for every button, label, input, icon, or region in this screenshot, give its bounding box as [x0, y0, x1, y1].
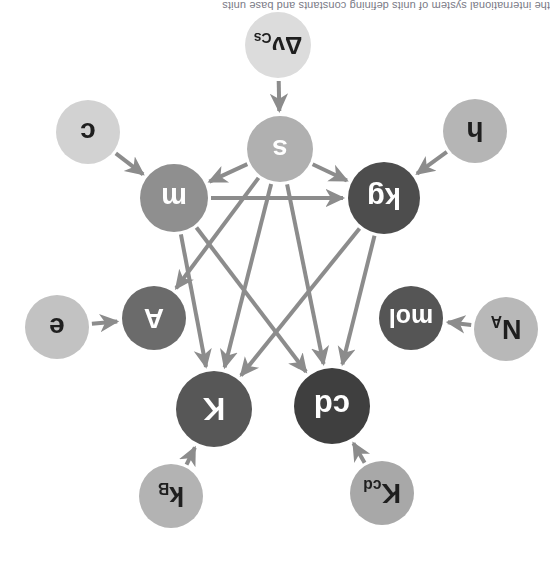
node-cd[interactable]: cd	[294, 368, 370, 444]
edge-h-to-kg	[417, 152, 447, 174]
node-h[interactable]: h	[443, 99, 507, 163]
edge-s-to-cd	[287, 184, 323, 364]
node-k-b[interactable]: kB	[139, 464, 203, 528]
edge-n-a-to-mol	[448, 322, 471, 325]
node-label: s	[272, 135, 288, 163]
node-e[interactable]: e	[25, 295, 89, 359]
node-label: m	[161, 184, 187, 213]
node-label: NA	[491, 316, 522, 343]
node-label-subscript: B	[158, 480, 169, 497]
node-label-subscript: Cs	[254, 30, 272, 46]
node-label: c	[80, 118, 96, 146]
node-label-subscript: cd	[363, 477, 381, 494]
node-k-cd[interactable]: Kcd	[350, 461, 414, 525]
node-label: h	[466, 117, 483, 145]
rotated-figure-group: KcdkBcdKNAmolAekgmhscΔνCs	[0, 0, 554, 561]
edge-k-b-to-k	[187, 448, 195, 465]
node-m[interactable]: m	[140, 164, 208, 232]
node-label: ΔνCs	[254, 33, 302, 57]
node-mol[interactable]: mol	[379, 286, 443, 350]
node-label: e	[49, 313, 65, 341]
node-label: kg	[367, 184, 401, 213]
edge-s-to-kg	[313, 164, 347, 180]
node-label: kB	[158, 483, 184, 510]
node-dv-cs[interactable]: ΔνCs	[245, 12, 311, 78]
node-s[interactable]: s	[247, 116, 313, 182]
diagram-canvas: the international system of units defini…	[0, 0, 554, 561]
node-kg[interactable]: kg	[348, 162, 420, 234]
node-n-a[interactable]: NA	[474, 297, 538, 361]
edge-m-to-cd	[196, 228, 306, 372]
edge-k-cd-to-cd	[353, 443, 364, 462]
node-label-subscript: A	[491, 313, 502, 330]
edge-s-to-m	[209, 164, 247, 182]
node-label: A	[144, 304, 164, 332]
edge-layer	[0, 0, 554, 561]
node-label: Kcd	[363, 480, 401, 507]
node-c[interactable]: c	[56, 100, 120, 164]
node-a-unit[interactable]: A	[122, 286, 186, 350]
edge-e-to-a-unit	[92, 321, 117, 323]
node-k[interactable]: K	[176, 371, 252, 447]
node-label: K	[203, 394, 225, 425]
edge-dv-cs-to-s	[279, 81, 280, 111]
edge-c-to-m	[116, 153, 143, 174]
node-label: mol	[389, 306, 433, 331]
node-label: cd	[314, 391, 350, 422]
edge-kg-to-cd	[342, 236, 374, 365]
